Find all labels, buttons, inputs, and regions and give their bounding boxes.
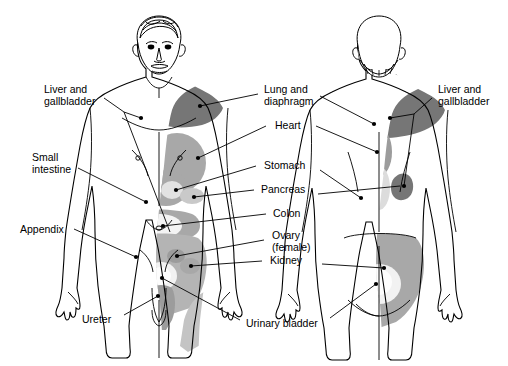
anterior-head [133, 16, 186, 74]
label-colon: Colon [273, 208, 300, 220]
label-pancreas: Pancreas [261, 184, 305, 196]
label-liver-gallbladder-right: Liver and gallbladder [438, 84, 489, 107]
stomach-region-anterior [161, 181, 183, 199]
label-ovary-female: Ovary (female) [272, 230, 311, 253]
label-liver-gallbladder-left: Liver and gallbladder [44, 84, 95, 107]
label-appendix: Appendix [20, 224, 64, 236]
label-kidney: Kidney [270, 255, 302, 267]
anterior-figure [56, 16, 242, 358]
label-heart: Heart [275, 120, 301, 132]
label-stomach: Stomach [264, 160, 305, 172]
label-small-intestine: Small intestine [32, 152, 71, 175]
referred-pain-diagram: Liver and gallbladder Small intestine Ap… [0, 0, 508, 366]
posterior-head [353, 16, 406, 77]
label-urinary-bladder: Urinary bladder [246, 318, 318, 330]
anatomy-illustration [0, 0, 508, 366]
label-lung-diaphragm: Lung and diaphragm [264, 84, 314, 107]
label-ureter: Ureter [82, 314, 111, 326]
urinary-bladder-core [151, 267, 171, 285]
